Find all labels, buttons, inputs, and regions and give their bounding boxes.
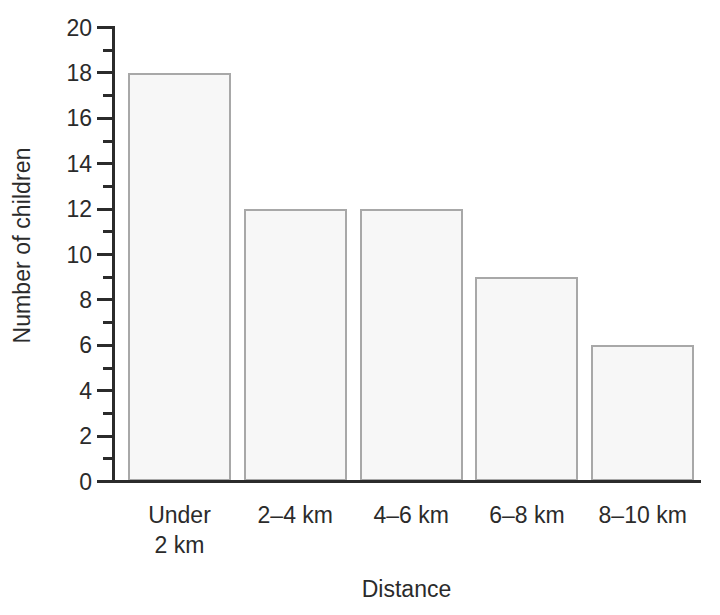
y-axis-major-tick: [97, 298, 113, 301]
y-axis-major-tick: [97, 253, 113, 256]
y-axis-tick-label: 6: [0, 334, 92, 357]
y-axis-major-tick: [97, 26, 113, 29]
y-axis-tick-label: 20: [0, 17, 92, 40]
y-axis-major-tick: [97, 435, 113, 438]
bar: [591, 345, 694, 481]
y-axis-major-tick: [97, 162, 113, 165]
y-axis-minor-tick: [103, 230, 113, 233]
y-axis-tick-label: 16: [0, 107, 92, 130]
y-axis-minor-tick: [103, 412, 113, 415]
y-axis-minor-tick: [103, 140, 113, 143]
y-axis-minor-tick: [103, 367, 113, 370]
x-axis-tick-label: 8–10 km: [573, 500, 712, 530]
y-axis-minor-tick: [103, 94, 113, 97]
y-axis-tick-label: 10: [0, 244, 92, 267]
y-axis-tick-label: 8: [0, 289, 92, 312]
y-axis-tick-label: 14: [0, 153, 92, 176]
y-axis-major-tick: [97, 480, 113, 483]
y-axis-tick-label: 18: [0, 62, 92, 85]
x-axis-line: [112, 480, 701, 483]
y-axis-major-tick: [97, 208, 113, 211]
y-axis-tick-label: 0: [0, 471, 92, 494]
bar: [360, 209, 463, 481]
y-axis-major-tick: [97, 117, 113, 120]
bar: [128, 73, 231, 482]
bar: [475, 277, 578, 481]
y-axis-major-tick: [97, 71, 113, 74]
y-axis-minor-tick: [103, 321, 113, 324]
y-axis-tick-label: 4: [0, 380, 92, 403]
y-axis-tick-label: 12: [0, 198, 92, 221]
y-axis-tick-label: 2: [0, 425, 92, 448]
y-axis-minor-tick: [103, 185, 113, 188]
y-axis-minor-tick: [103, 276, 113, 279]
bar: [244, 209, 347, 481]
bar-chart: Number of children 02468101214161820 Und…: [0, 0, 720, 615]
y-axis-major-tick: [97, 344, 113, 347]
x-axis-title: Distance: [112, 576, 701, 603]
y-axis-minor-tick: [103, 49, 113, 52]
y-axis-minor-tick: [103, 457, 113, 460]
y-axis-major-tick: [97, 389, 113, 392]
